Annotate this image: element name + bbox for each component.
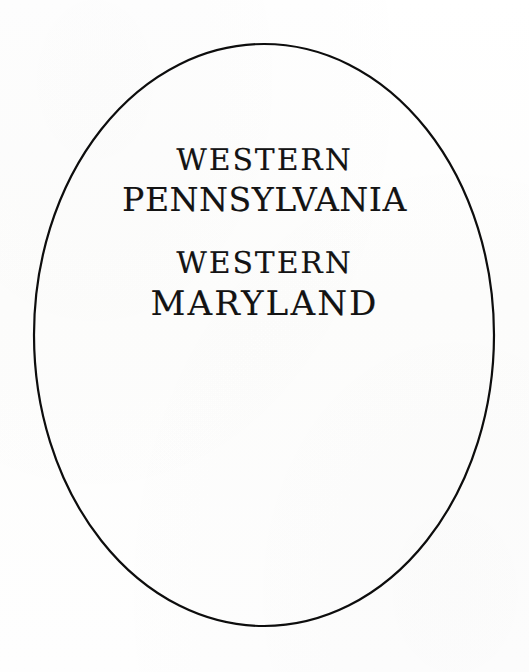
title-line-pennsylvania: PENNSYLVANIA bbox=[0, 183, 529, 216]
oval-border-frame bbox=[0, 0, 529, 672]
title-group-pennsylvania: WESTERN PENNSYLVANIA bbox=[0, 146, 529, 216]
title-line-western-pennsylvania-western: WESTERN bbox=[3, 146, 527, 176]
oval-border-ellipse bbox=[34, 44, 494, 626]
title-group-maryland: WESTERN MARYLAND bbox=[0, 249, 529, 321]
title-line-maryland: MARYLAND bbox=[0, 287, 529, 321]
scanned-page: WESTERN PENNSYLVANIA WESTERN MARYLAND bbox=[0, 0, 529, 672]
title-line-western-maryland-western: WESTERN bbox=[3, 249, 527, 279]
